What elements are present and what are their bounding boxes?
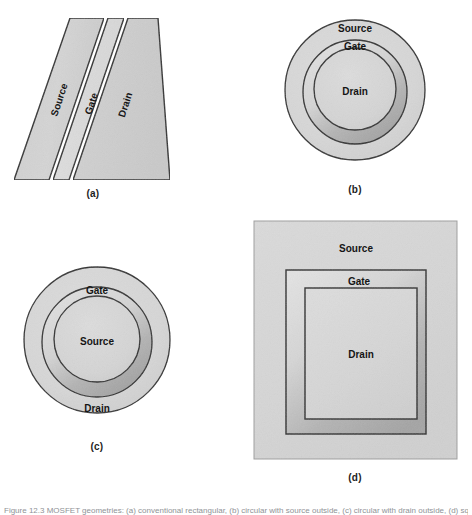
panel-d-gate-label: Gate xyxy=(348,276,371,287)
panel-d-caption: (d) xyxy=(341,472,369,483)
panel-b-gate-label: Gate xyxy=(344,41,367,52)
panel-d-diagram: Source Gate Drain xyxy=(236,210,472,510)
panel-d-source-label: Source xyxy=(339,243,373,254)
panel-c: Gate Source Drain (c) xyxy=(0,250,236,465)
panel-b-drain-label: Drain xyxy=(342,86,368,97)
panel-d-drain-label: Drain xyxy=(348,349,374,360)
panel-b-source-label: Source xyxy=(338,23,372,34)
panel-d: Source Gate Drain (d) xyxy=(236,210,472,510)
panel-b-diagram: Source Gate Drain xyxy=(236,0,472,210)
figure-caption: Figure 12.3 MOSFET geometries: (a) conve… xyxy=(4,506,468,515)
panel-b-caption: (b) xyxy=(341,184,369,195)
panel-c-source-label: Source xyxy=(80,336,114,347)
panel-a-caption: (a) xyxy=(79,188,107,199)
panel-a: Source Gate Drain (a) xyxy=(0,0,236,210)
figure-root: Source Gate Drain (a) xyxy=(0,0,472,515)
panel-c-diagram: Gate Source Drain xyxy=(0,250,236,465)
panel-a-diagram: Source Gate Drain xyxy=(0,0,236,210)
panel-c-gate-label: Gate xyxy=(86,285,109,296)
panel-c-caption: (c) xyxy=(83,441,111,452)
panel-c-drain-label: Drain xyxy=(84,403,110,414)
panel-b: Source Gate Drain (b) xyxy=(236,0,472,210)
